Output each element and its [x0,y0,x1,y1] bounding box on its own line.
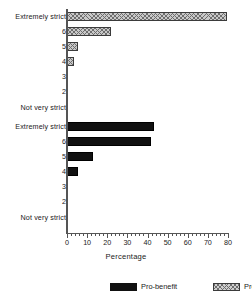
x-tick-major [228,233,229,238]
x-tick-label: 20 [96,238,118,247]
chart-row: 3 [0,69,252,84]
bar-pro-support-2 [67,42,78,51]
category-label: 2 [0,194,66,209]
x-tick-minor [115,233,116,236]
category-label: Not very strict [0,210,66,225]
bar-pro-benefit-1 [67,137,151,146]
x-tick-label: 50 [157,238,179,247]
bar-pro-benefit-3 [67,167,78,176]
bar-track [67,39,228,54]
chart-row: 6 [0,134,252,149]
legend-label: Pro-benefit [141,281,177,293]
x-tick-major [67,233,68,238]
category-label: 4 [0,164,66,179]
x-tick-minor [143,233,144,236]
x-tick-minor [204,233,205,236]
bar-track [67,179,228,194]
x-tick-minor [172,233,173,236]
category-label: 2 [0,84,66,99]
bar-track [67,210,228,225]
chart-row: Extremely strict [0,9,252,24]
x-tick-minor [224,233,225,236]
chart-row: Extremely strict [0,119,252,134]
x-tick-minor [99,233,100,236]
chart-root: Extremely strict65432Not very strict Ext… [0,0,252,299]
bar-track [67,100,228,115]
x-tick-major [87,233,88,238]
chart-row: 5 [0,39,252,54]
x-tick-minor [164,233,165,236]
x-tick-minor [95,233,96,236]
category-label: 6 [0,134,66,149]
category-label: Extremely strict [0,119,66,134]
bar-track [67,54,228,69]
bar-track [67,134,228,149]
bar-pro-benefit-0 [67,122,154,131]
x-tick-minor [156,233,157,236]
bar-track [67,119,228,134]
x-tick-minor [220,233,221,236]
category-label: Not very strict [0,100,66,115]
x-tick-minor [176,233,177,236]
x-tick-label: 70 [197,238,219,247]
x-tick-label: 0 [56,238,78,247]
x-tick-minor [75,233,76,236]
x-tick-label: 10 [76,238,98,247]
x-tick-minor [119,233,120,236]
x-tick-minor [216,233,217,236]
category-label: 5 [0,39,66,54]
bar-pro-support-3 [67,57,74,66]
bar-track [67,24,228,39]
chart-row: 4 [0,54,252,69]
x-tick-minor [91,233,92,236]
x-tick-minor [200,233,201,236]
chart-row: 5 [0,149,252,164]
bar-track [67,149,228,164]
chart-row: Not very strict [0,100,252,115]
bar-track [67,9,228,24]
x-axis-label: Percentage [0,252,252,261]
legend-swatch-icon [110,283,137,291]
x-tick-minor [131,233,132,236]
x-tick-minor [160,233,161,236]
x-tick-major [127,233,128,238]
x-tick-minor [83,233,84,236]
x-tick-label: 30 [116,238,138,247]
x-tick-minor [184,233,185,236]
x-tick-minor [111,233,112,236]
x-tick-label: 80 [217,238,239,247]
x-tick-major [208,233,209,238]
x-tick-major [107,233,108,238]
category-label: 3 [0,69,66,84]
x-tick-minor [196,233,197,236]
y-axis-line [66,9,67,233]
category-label: 4 [0,54,66,69]
x-tick-major [148,233,149,238]
x-tick-minor [135,233,136,236]
x-tick-minor [212,233,213,236]
category-label: 6 [0,24,66,39]
legend-label: Pro-su [244,281,252,293]
x-tick-major [168,233,169,238]
x-tick-minor [139,233,140,236]
bar-track [67,84,228,99]
bar-track [67,69,228,84]
x-tick-minor [192,233,193,236]
legend-swatch-icon [213,283,240,291]
category-label: 3 [0,179,66,194]
chart-row: 4 [0,164,252,179]
bar-pro-benefit-2 [67,152,93,161]
chart-row: Not very strict [0,210,252,225]
x-tick-minor [71,233,72,236]
chart-row: 3 [0,179,252,194]
x-tick-label: 60 [177,238,199,247]
x-tick-label: 40 [137,238,159,247]
bar-track [67,194,228,209]
category-label: Extremely strict [0,9,66,24]
category-label: 5 [0,149,66,164]
x-tick-minor [103,233,104,236]
x-tick-minor [152,233,153,236]
chart-legend: Pro-benefitPro-su [0,281,252,295]
x-tick-minor [123,233,124,236]
chart-row: 2 [0,194,252,209]
